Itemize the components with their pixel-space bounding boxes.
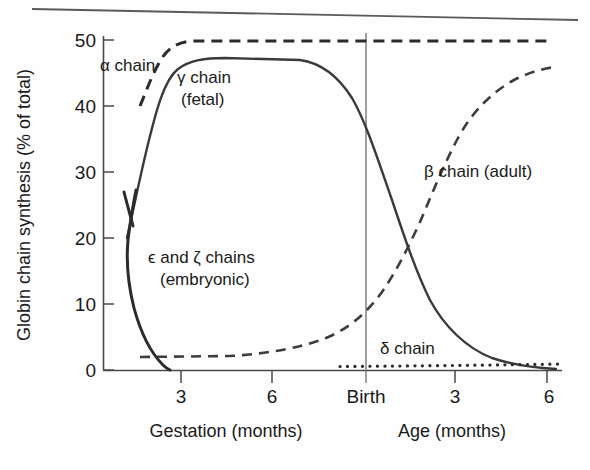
y-tick-label-20: 20 [75,228,96,249]
series-label-alpha-chain: α chain [100,56,155,75]
series-label-epsilon-zeta-line2: (embryonic) [160,270,250,289]
series-label-epsilon-zeta-line1: ϵ and ζ chains [148,248,255,267]
x-axis-ticks [181,370,547,383]
globin-chain-synthesis-figure: 50 40 30 20 10 0 3 6 Birth 3 6 Gestation… [0,0,590,470]
series-label-beta-chain: β chain (adult) [424,162,532,181]
x-tick-label-age-3: 3 [450,386,461,407]
y-tick-label-30: 30 [75,162,96,183]
x-axis-title-gestation: Gestation (months) [149,421,302,441]
y-axis-title: Globin chain synthesis (% of total) [14,69,34,341]
x-tick-label-gestation-3: 3 [176,386,187,407]
y-tick-label-40: 40 [75,96,96,117]
x-tick-label-gestation-6: 6 [267,386,278,407]
x-tick-label-age-6: 6 [544,386,555,407]
axes-group [103,33,562,383]
y-tick-label-0: 0 [85,360,96,381]
y-tick-label-50: 50 [75,30,96,51]
top-page-rule [32,9,578,20]
y-tick-label-10: 10 [75,294,96,315]
series-label-delta-chain: δ chain [380,339,435,358]
series-label-gamma-chain-line1: γ chain [177,68,231,87]
series-label-gamma-chain-line2: (fetal) [181,90,224,109]
x-axis-title-age: Age (months) [398,421,506,441]
x-tick-label-birth: Birth [346,386,385,407]
series-curve-beta-chain [140,67,556,357]
chart-canvas: 50 40 30 20 10 0 3 6 Birth 3 6 Gestation… [0,0,590,470]
y-axis-ticks [103,40,114,370]
